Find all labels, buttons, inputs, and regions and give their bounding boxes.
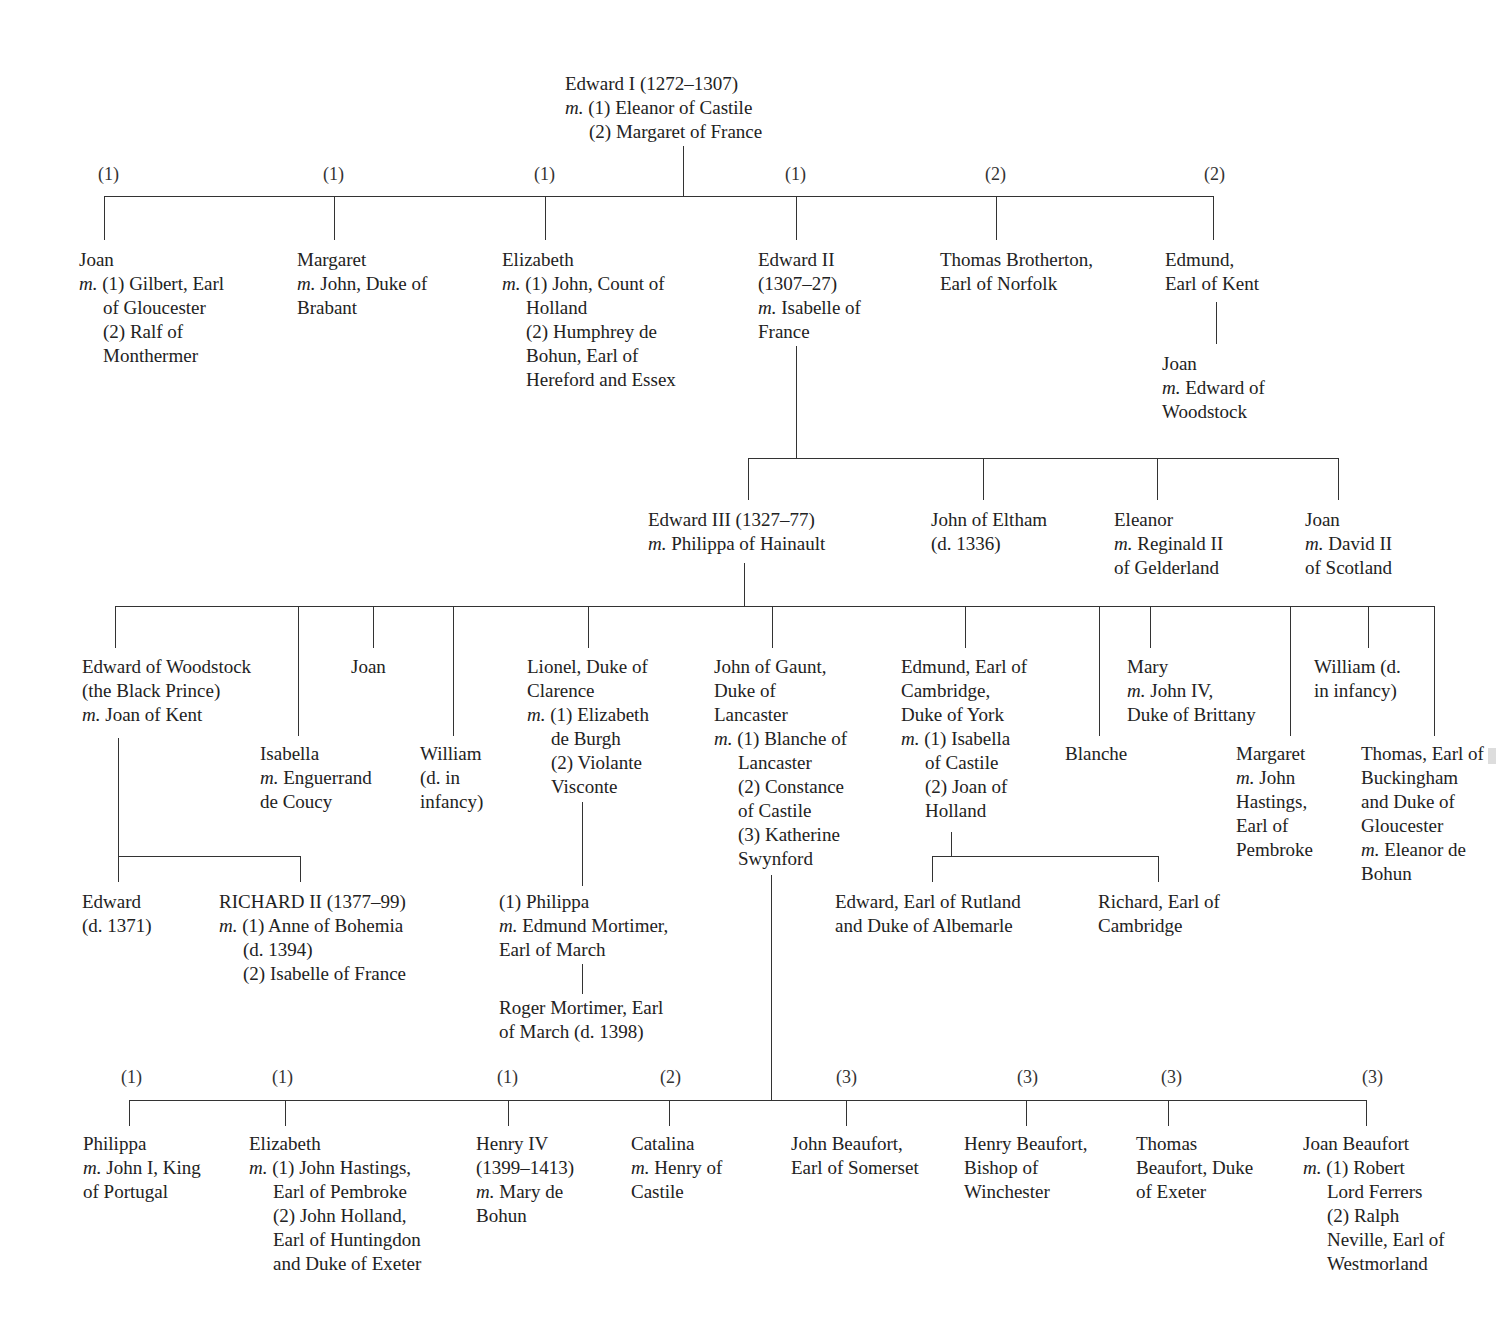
person-name: Edward, Earl of Rutland [835,890,1021,914]
person-philippa-mortimer: (1) Philippa m. Edmund Mortimer, Earl of… [499,890,668,962]
marriage-line: m. (1) Gilbert, Earl [79,272,224,296]
marriage-line: Pembroke [1236,838,1313,862]
connector-line [582,802,583,886]
connector-line [1168,1100,1169,1126]
connector-line [298,606,299,736]
connector-line [118,738,119,856]
marriage-line: m. Henry of [631,1156,722,1180]
person-john-of-eltham: John of Eltham (d. 1336) [931,508,1047,556]
sibling-bar [932,856,1158,857]
connector-line [996,196,997,240]
marriage-line: (3) Katherine [714,823,847,847]
connector-line [1216,302,1217,344]
person-name: Elizabeth [249,1132,421,1156]
person-title: Duke of York [901,703,1027,727]
person-name: Thomas [1136,1132,1253,1156]
marriage-line: Lord Ferrers [1303,1180,1445,1204]
person-edward-i: Edward I (1272–1307) m. (1) Eleanor of C… [565,72,762,144]
marriage-line: (2) Humphrey de [502,320,676,344]
death-date: (d. 1371) [82,914,152,938]
marriage-line: (2) Ralf of [79,320,224,344]
marriage-line: m. (1) Robert [1303,1156,1445,1180]
marriage-line: m. John I, King [83,1156,201,1180]
connector-line [965,606,966,648]
person-title: Clarence [527,679,649,703]
marriage-line: m. Edward of [1162,376,1265,400]
connector-line [1150,606,1151,648]
person-title: Lancaster [714,703,847,727]
person-name: Margaret [1236,742,1313,766]
person-name: John of Gaunt, [714,655,847,679]
connector-line [796,196,797,240]
person-thomas-beaufort: Thomas Beaufort, Duke of Exeter [1136,1132,1253,1204]
connector-line [545,196,546,240]
marriage-line: (2) Constance [714,775,847,799]
person-title: Buckingham [1361,766,1484,790]
person-title: of Exeter [1136,1180,1253,1204]
person-name: Thomas, Earl of [1361,742,1484,766]
person-name: John of Eltham [931,508,1047,532]
person-name: William [420,742,483,766]
connector-line [115,606,116,648]
marriage-line: Westmorland [1303,1252,1445,1276]
connector-line [932,856,933,882]
marriage-line: Visconte [527,775,649,799]
marriage-line: m. Reginald II [1114,532,1223,556]
connector-line [1026,1100,1027,1126]
person-name: Henry Beaufort, [964,1132,1087,1156]
death-date: (d. 1394) [219,938,406,962]
marriage-line: (2) Violante [527,751,649,775]
person-name: Joan [1162,352,1265,376]
marriage-line: Earl of Huntingdon [249,1228,421,1252]
marriage-marker: (3) [836,1066,857,1088]
sibling-bar [115,606,1435,607]
connector-line [453,606,454,736]
person-name: Blanche [1065,742,1127,766]
marriage-line: of Castile [714,799,847,823]
person-william-ii: William (d. in infancy) [1314,655,1401,703]
connector-line [300,856,301,882]
person-name: Henry IV [476,1132,574,1156]
marriage-marker: (3) [1362,1066,1383,1088]
sibling-bar [118,856,300,857]
marriage-marker: (1) [323,163,344,185]
marriage-line: Duke of Brittany [1127,703,1256,727]
person-name: Edward III (1327–77) [648,508,825,532]
person-title: Winchester [964,1180,1087,1204]
person-margaret-iii: Margaret m. John Hastings, Earl of Pembr… [1236,742,1313,862]
person-edward-rutland: Edward, Earl of Rutland and Duke of Albe… [835,890,1021,938]
person-title: Earl of Norfolk [940,272,1093,296]
marriage-marker: (3) [1161,1066,1182,1088]
connector-line [1366,1100,1367,1126]
person-name: Edward I (1272–1307) [565,72,762,96]
marriage-line: m. (1) Eleanor of Castile [565,96,762,120]
person-name: William (d. [1314,655,1401,679]
person-edmund-york: Edmund, Earl of Cambridge, Duke of York … [901,655,1027,823]
person-richard-ii: RICHARD II (1377–99) m. (1) Anne of Bohe… [219,890,406,986]
marriage-line: Castile [631,1180,722,1204]
marriage-line: (2) Margaret of France [565,120,762,144]
connector-line [334,196,335,240]
person-name: Isabella [260,742,372,766]
marriage-line: Hereford and Essex [502,368,676,392]
marriage-line: (2) Isabelle of France [219,962,406,986]
marriage-line: Earl of March [499,938,668,962]
marriage-line: m. (1) Anne of Bohemia [219,914,406,938]
person-black-prince: Edward of Woodstock (the Black Prince) m… [82,655,251,727]
connector-line [104,196,105,240]
marriage-line: m. John [1236,766,1313,790]
marriage-line: Hastings, [1236,790,1313,814]
connector-line [1158,856,1159,882]
marriage-marker: (1) [121,1066,142,1088]
person-edmund-kent: Edmund, Earl of Kent [1165,248,1259,296]
marriage-line: m. John, Duke of [297,272,427,296]
marriage-line: Monthermer [79,344,224,368]
connector-line [846,1100,847,1126]
marriage-line: m. Enguerrand [260,766,372,790]
connector-line [588,606,589,648]
marriage-line: m. Joan of Kent [82,703,251,727]
reign-dates: (1399–1413) [476,1156,574,1180]
person-title: Bishop of [964,1156,1087,1180]
person-name: Margaret [297,248,427,272]
death-date: (d. 1336) [931,532,1047,556]
